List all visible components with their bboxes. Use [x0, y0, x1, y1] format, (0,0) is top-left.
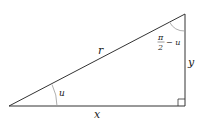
label-height-y: y [187, 56, 195, 69]
angle-arc-u [52, 85, 57, 107]
triangle-outline [9, 14, 185, 106]
label-angle-denominator-2: 2 [157, 43, 163, 52]
label-angle-numerator-pi: π [157, 33, 164, 42]
label-hypotenuse-r: r [98, 44, 104, 57]
label-base-x: x [94, 108, 101, 121]
label-angle-u: u [59, 88, 65, 98]
label-angle-suffix: − u [166, 38, 180, 47]
right-triangle-diagram: r u x y π 2 − u [0, 0, 205, 124]
angle-arc-complement [170, 22, 186, 31]
right-angle-marker [178, 99, 185, 106]
